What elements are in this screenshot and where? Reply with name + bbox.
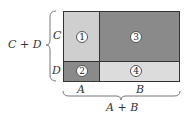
row-label-c: C (53, 29, 61, 42)
cell-4-number: 4 (130, 65, 142, 77)
cell-2-number: 2 (76, 65, 88, 77)
col-label-a: A (77, 83, 85, 96)
row-label-d: D (52, 64, 61, 77)
left-brace-label: C + D (8, 38, 41, 51)
cell-1-number: 1 (76, 31, 88, 43)
cell-3-number: 3 (130, 31, 142, 43)
col-label-b: B (136, 83, 144, 96)
outlines-and-braces (0, 0, 190, 119)
bottom-brace-label: A + B (106, 101, 138, 114)
